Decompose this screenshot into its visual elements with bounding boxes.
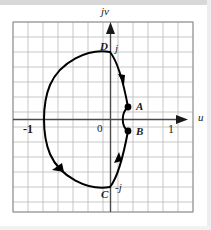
point-marker-B (125, 128, 132, 135)
tick-label-negative-j: -j (115, 182, 122, 193)
u-axis-arrowhead (176, 115, 188, 124)
point-label-A: A (136, 101, 143, 112)
segment-D-to-A (110, 52, 128, 107)
axis-label-u: u (198, 112, 204, 123)
tick-label-one: 1 (168, 123, 174, 135)
point-label-D: D (100, 41, 108, 52)
point-marker-A (125, 104, 132, 111)
axis-label-jv: jv (101, 6, 109, 17)
tick-label-positive-j: j (115, 43, 118, 54)
jv-axis-arrowhead (106, 22, 115, 34)
origin-label: 0 (97, 123, 103, 134)
point-label-C: C (101, 189, 108, 200)
axis-lines (13, 32, 178, 212)
figure-container: jv u D j A B C -j -1 1 0 (0, 0, 211, 230)
arrowhead-upper-segment (118, 74, 125, 85)
tick-label-minus-one: -1 (23, 123, 33, 135)
point-label-B: B (136, 126, 143, 137)
